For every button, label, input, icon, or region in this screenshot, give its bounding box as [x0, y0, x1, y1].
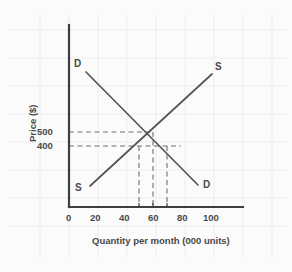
x-axis-title: Quantity per month (000 units) — [92, 236, 230, 246]
y-axis-title: Price ($) — [28, 105, 38, 143]
supply-demand-chart: 500 400 0 20 40 60 80 100 D D S S Quanti… — [0, 0, 292, 272]
x-tick-label-40: 40 — [119, 213, 130, 223]
supply-label-top: S — [215, 62, 222, 72]
demand-label-bottom: D — [203, 180, 210, 190]
x-tick-label-60: 60 — [148, 213, 159, 223]
supply-label-bottom: S — [75, 183, 82, 193]
demand-label-top: D — [74, 59, 81, 69]
y-tick-label-500: 500 — [37, 127, 53, 137]
x-tick-label-20: 20 — [90, 213, 101, 223]
x-tick-label-0: 0 — [66, 213, 71, 223]
y-tick-label-400: 400 — [37, 141, 53, 151]
demand-curve — [86, 72, 198, 185]
x-tick-label-80: 80 — [177, 213, 188, 223]
supply-curve — [90, 74, 212, 186]
x-tick-label-100: 100 — [203, 213, 219, 223]
